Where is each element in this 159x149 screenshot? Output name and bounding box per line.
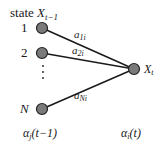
node-label-2: 2: [21, 45, 28, 60]
target-node-label: Xt: [143, 62, 154, 77]
edges: [42, 28, 134, 109]
source-node-2: [37, 48, 48, 59]
alpha-current-label: αi(t): [121, 126, 141, 141]
edge-2: [42, 53, 134, 69]
node-label-n: N: [19, 101, 30, 116]
source-node-n: [37, 104, 48, 115]
state-title: state Xt−1: [10, 5, 58, 22]
edge-label-1: a1i: [74, 28, 86, 42]
alpha-prev-label: αj(t−1): [23, 126, 57, 141]
trellis-diagram: state Xt−1 a1i a2i aNi 1 2 N Xt αj(t−1) …: [0, 0, 159, 149]
target-node: [129, 64, 140, 75]
edge-n: [42, 69, 134, 109]
edge-label-n: aNi: [74, 89, 87, 103]
node-label-1: 1: [21, 20, 28, 35]
source-node-1: [37, 23, 48, 34]
vertical-ellipsis: [42, 65, 44, 79]
edge-1: [42, 28, 134, 69]
